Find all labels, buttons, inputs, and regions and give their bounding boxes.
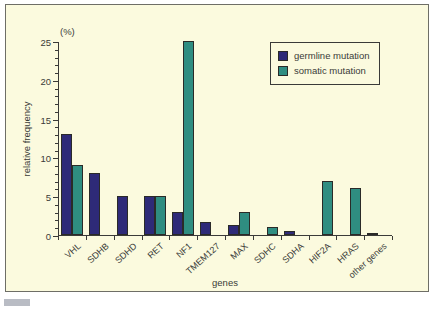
x-tick-label: RET <box>146 241 166 260</box>
legend-item-somatic: somatic mutation <box>278 63 370 78</box>
y-tick-label: 5 <box>46 192 51 203</box>
y-tick-label: 20 <box>40 75 51 86</box>
y-tick-minor <box>55 220 58 221</box>
caption-marker-icon <box>4 299 30 306</box>
y-tick-minor <box>55 213 58 214</box>
bar-somatic <box>183 41 194 235</box>
x-tick-label: HIF2A <box>307 241 333 266</box>
y-axis-title: relative frequency <box>20 42 34 236</box>
figure: (%) relative frequency genes 0510152025 … <box>0 0 435 309</box>
legend-swatch-somatic-icon <box>278 66 288 76</box>
y-tick-label: 0 <box>46 231 51 242</box>
y-tick-major <box>53 197 58 198</box>
bar-germline <box>89 173 100 235</box>
bar-somatic <box>350 188 361 235</box>
bar-somatic <box>267 227 278 235</box>
y-axis-unit-label: (%) <box>60 26 75 37</box>
x-tick-label: SDHA <box>280 241 305 265</box>
bar-germline <box>61 134 72 235</box>
y-tick-minor <box>55 127 58 128</box>
x-tick-label: SDHB <box>85 241 110 265</box>
y-tick-minor <box>55 96 58 97</box>
y-tick-minor <box>55 73 58 74</box>
y-tick-minor <box>55 182 58 183</box>
legend-swatch-germline-icon <box>278 51 288 61</box>
x-tick <box>58 236 59 240</box>
chart-panel: (%) relative frequency genes 0510152025 … <box>5 4 429 292</box>
y-tick-minor <box>55 205 58 206</box>
x-tick-label: SDHC <box>252 241 278 266</box>
y-tick-minor <box>55 151 58 152</box>
legend-label-somatic: somatic mutation <box>294 65 366 76</box>
x-tick-label: VHL <box>63 241 83 260</box>
y-tick-major <box>53 81 58 82</box>
y-tick-minor <box>55 166 58 167</box>
y-tick-minor <box>55 58 58 59</box>
y-tick-minor <box>55 174 58 175</box>
y-tick-minor <box>55 112 58 113</box>
bar-somatic <box>155 196 166 235</box>
y-tick-minor <box>55 189 58 190</box>
bar-somatic <box>322 181 333 235</box>
y-tick-major <box>53 42 58 43</box>
legend-label-germline: germline mutation <box>294 50 370 61</box>
y-tick-major <box>53 158 58 159</box>
x-axis-title: genes <box>58 277 392 288</box>
caption-strip <box>0 297 435 309</box>
y-tick-label: 25 <box>40 37 51 48</box>
y-tick-minor <box>55 143 58 144</box>
x-tick-label: NF1 <box>175 241 194 260</box>
y-tick-minor <box>55 65 58 66</box>
legend-item-germline: germline mutation <box>278 48 370 63</box>
y-tick-minor <box>55 104 58 105</box>
y-tick-label: 15 <box>40 114 51 125</box>
y-tick-minor <box>55 135 58 136</box>
legend: germline mutation somatic mutation <box>270 42 380 85</box>
y-axis-line <box>58 42 59 236</box>
y-tick-minor <box>55 89 58 90</box>
x-tick-label: MAX <box>228 241 249 261</box>
y-tick-major <box>53 120 58 121</box>
bar-somatic <box>72 165 83 235</box>
y-tick-minor <box>55 50 58 51</box>
x-tick-label: SDHD <box>113 241 139 266</box>
y-tick-label: 10 <box>40 153 51 164</box>
y-tick-minor <box>55 228 58 229</box>
